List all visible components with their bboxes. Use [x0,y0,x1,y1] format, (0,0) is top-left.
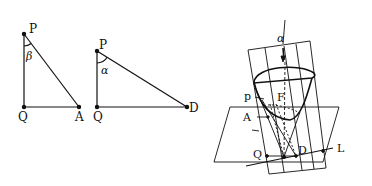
point-q [22,105,25,108]
triangle-pqd [95,49,188,108]
label-p-2: P [99,38,107,52]
point-a [77,105,80,108]
label-q-1: Q [18,110,28,124]
label-p-3d: p [244,90,251,103]
arrow-small [252,130,259,131]
cone-top-rim [254,67,315,83]
generator-line [284,62,285,157]
angle-alpha-arc [97,57,107,63]
side-pa [24,34,79,107]
triangle-pqa [22,32,80,108]
ground-plane [214,107,339,162]
label-d-2: D [189,101,199,115]
label-q-3d: Q [253,148,262,161]
label-alpha-3d: α [277,32,285,45]
axis-arrowhead-icon [281,56,285,62]
label-p-1: P [29,22,37,36]
label-alpha: α [101,64,109,77]
angle-beta-arc [24,44,31,46]
point-q [95,105,98,108]
generator-line [276,104,296,156]
diagram-canvas: P β Q A P α Q D [0,0,372,186]
side-pd [97,51,187,107]
point-q [266,155,269,158]
point-vertex [282,155,285,158]
point-p [22,32,25,35]
point-d [295,155,298,158]
label-a-1: A [74,110,84,124]
point-l-intersection [322,150,325,153]
label-a-3d: A [242,111,252,124]
label-d-3d: D [298,144,307,157]
label-l-3d: L [337,142,345,155]
generator-line [270,104,284,157]
label-f-3d: F [277,91,285,104]
label-beta: β [25,50,32,63]
generator-line [262,100,296,156]
point-a [267,116,269,118]
label-q-2: Q [93,110,103,124]
